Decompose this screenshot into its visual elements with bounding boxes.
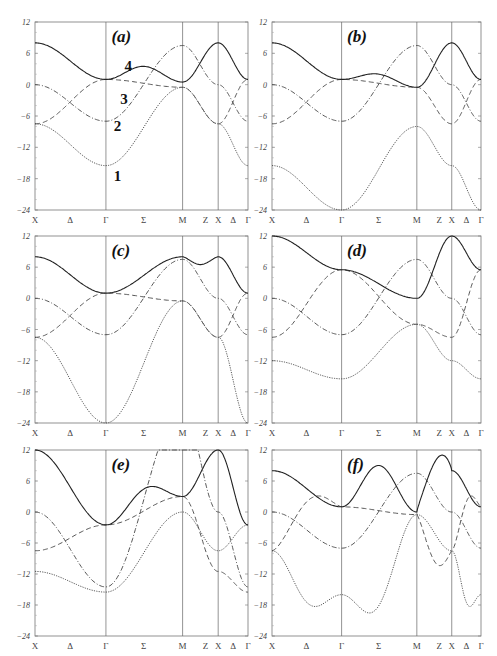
y-tick-label: −24 (17, 419, 30, 428)
band-plot: 1260−6−12−18−24XΔΓΣMZXΔΓ(f) (272, 450, 481, 636)
x-tick-label: M (179, 215, 187, 225)
panel-label: (a) (111, 27, 131, 46)
x-tick-label: Γ (245, 215, 250, 225)
x-tick-label: Z (436, 428, 442, 438)
y-tick-label: −24 (254, 632, 267, 641)
band-number-label: 3 (120, 91, 128, 107)
band-number-label: 1 (114, 168, 122, 184)
band-3-line (272, 270, 481, 338)
band-4-line (272, 455, 481, 512)
y-tick-label: −18 (254, 175, 267, 184)
x-tick-label: X (269, 428, 276, 438)
band-3-line (272, 496, 481, 566)
y-tick-label: 6 (263, 477, 267, 486)
x-tick-label: Δ (67, 215, 73, 225)
y-tick-label: −18 (254, 601, 267, 610)
y-tick-label: 0 (26, 81, 30, 90)
y-tick-label: 12 (22, 446, 30, 455)
x-tick-label: Γ (103, 641, 108, 651)
y-tick-label: −12 (254, 570, 267, 579)
x-tick-label: X (215, 215, 222, 225)
y-tick-label: 12 (259, 446, 267, 455)
y-tick-label: 12 (259, 18, 267, 27)
y-tick-label: 6 (263, 263, 267, 272)
x-tick-label: Δ (230, 215, 236, 225)
band-1-line (35, 512, 248, 592)
x-tick-label: Δ (463, 428, 469, 438)
y-tick-label: 12 (22, 18, 30, 27)
band-2-line (272, 259, 481, 334)
y-tick-label: −18 (254, 388, 267, 397)
band-4-line (272, 43, 481, 87)
x-tick-label: Δ (230, 428, 236, 438)
x-tick-label: M (413, 215, 421, 225)
panel-label: (d) (347, 241, 367, 260)
panel-a: 1260−6−12−18−24XΔΓΣMZXΔΓ(a)1234 (35, 22, 248, 210)
x-tick-label: Γ (245, 428, 250, 438)
x-tick-label: X (32, 641, 39, 651)
x-tick-label: Δ (304, 428, 310, 438)
x-tick-label: M (179, 641, 187, 651)
y-tick-label: −12 (254, 357, 267, 366)
band-1-line (272, 126, 481, 210)
panel-label: (b) (347, 27, 367, 46)
x-tick-label: X (32, 428, 39, 438)
x-tick-label: Γ (339, 428, 344, 438)
y-tick-label: −24 (254, 419, 267, 428)
band-plot: 1260−6−12−18−24XΔΓΣMZXΔΓ(b) (272, 22, 481, 210)
y-tick-label: −24 (17, 206, 30, 215)
x-tick-label: Δ (304, 215, 310, 225)
panel-e: 1260−6−12−18−24XΔΓΣMZXΔΓ(e) (35, 450, 248, 636)
x-tick-label: M (179, 428, 187, 438)
x-tick-label: Σ (141, 215, 146, 225)
panel-label: (f) (347, 455, 364, 474)
y-tick-label: 6 (26, 49, 30, 58)
band-plot: 1260−6−12−18−24XΔΓΣMZXΔΓ(e) (35, 450, 248, 636)
x-tick-label: Σ (376, 641, 381, 651)
y-tick-label: −12 (254, 143, 267, 152)
y-tick-label: 0 (26, 294, 30, 303)
x-tick-label: M (413, 641, 421, 651)
x-tick-label: Δ (304, 641, 310, 651)
band-3-line (35, 79, 248, 123)
x-tick-label: Σ (141, 641, 146, 651)
x-tick-label: Γ (478, 641, 483, 651)
x-tick-label: X (448, 215, 455, 225)
x-tick-label: Γ (339, 641, 344, 651)
y-tick-label: −12 (17, 143, 30, 152)
x-tick-label: Z (436, 641, 442, 651)
x-tick-label: M (413, 428, 421, 438)
panel-b: 1260−6−12−18−24XΔΓΣMZXΔΓ(b) (272, 22, 481, 210)
x-tick-label: Δ (463, 641, 469, 651)
y-tick-label: −12 (17, 357, 30, 366)
band-number-label: 2 (114, 118, 122, 134)
panel-label: (e) (111, 455, 130, 474)
x-tick-label: Γ (103, 215, 108, 225)
x-tick-label: X (269, 215, 276, 225)
x-tick-label: Γ (245, 641, 250, 651)
y-tick-label: −6 (258, 539, 267, 548)
band-4-line (35, 450, 248, 525)
panel-d: 1260−6−12−18−24XΔΓΣMZXΔΓ(d) (272, 236, 481, 423)
band-2-line (35, 450, 248, 587)
y-tick-label: 0 (263, 294, 267, 303)
band-plot: 1260−6−12−18−24XΔΓΣMZXΔΓ(a)1234 (35, 22, 248, 210)
band-1-line (272, 515, 481, 613)
x-tick-label: Σ (376, 428, 381, 438)
x-tick-label: Δ (67, 428, 73, 438)
y-tick-label: 12 (259, 232, 267, 241)
band-3-line (35, 293, 248, 337)
y-tick-label: −18 (17, 388, 30, 397)
x-tick-label: Γ (478, 428, 483, 438)
x-tick-label: Z (203, 215, 209, 225)
x-tick-label: Σ (376, 215, 381, 225)
band-plot: 1260−6−12−18−24XΔΓΣMZXΔΓ(c) (35, 236, 248, 423)
x-tick-label: X (215, 428, 222, 438)
x-tick-label: X (269, 641, 276, 651)
y-tick-label: 0 (26, 508, 30, 517)
band-1-line (35, 87, 248, 165)
y-tick-label: −12 (17, 570, 30, 579)
x-tick-label: Z (436, 215, 442, 225)
band-number-label: 4 (124, 58, 132, 74)
x-tick-label: X (215, 641, 222, 651)
